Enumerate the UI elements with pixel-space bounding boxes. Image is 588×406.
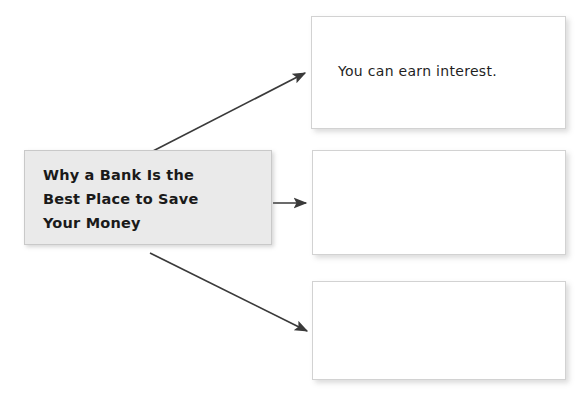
detail-box-2[interactable] (312, 150, 566, 255)
detail-box-3[interactable] (312, 281, 566, 380)
detail-box-1-label: You can earn interest. (338, 61, 551, 81)
topic-box[interactable]: Why a Bank Is the Best Place to Save You… (24, 150, 272, 245)
arrow-to-detail-3 (150, 253, 307, 331)
topic-box-label: Why a Bank Is the Best Place to Save You… (43, 163, 255, 235)
arrow-to-detail-1 (153, 73, 305, 151)
diagram-canvas: Why a Bank Is the Best Place to Save You… (0, 0, 588, 406)
detail-box-1[interactable]: You can earn interest. (311, 16, 566, 129)
